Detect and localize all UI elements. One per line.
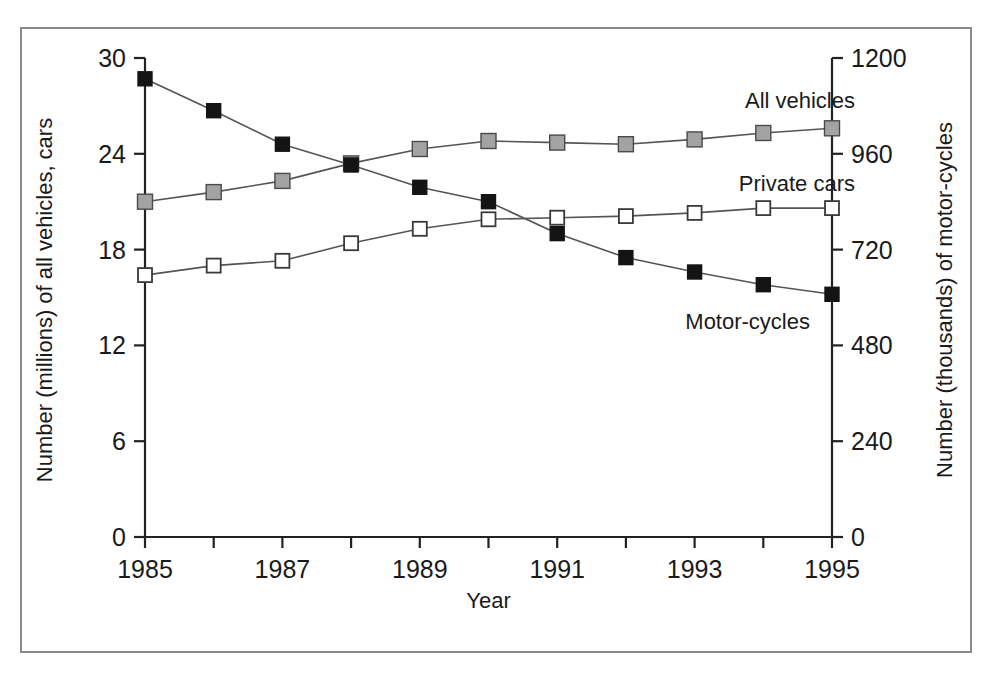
data-point-motor-cycles[interactable] — [482, 195, 496, 209]
clipped-caption-text — [22, 660, 662, 678]
data-point-private-cars[interactable] — [413, 222, 427, 236]
data-point-all-vehicles[interactable] — [138, 194, 153, 209]
data-point-all-vehicles[interactable] — [618, 137, 633, 152]
data-point-private-cars[interactable] — [550, 211, 564, 225]
data-point-motor-cycles[interactable] — [207, 104, 221, 118]
x-axis-title: Year — [466, 588, 510, 613]
right-axis-title: Number (thousands) of motor-cycles — [932, 122, 957, 478]
x-axis-tick-label: 1995 — [804, 555, 860, 583]
right-axis-tick-label: 0 — [851, 523, 865, 551]
right-axis-tick-label: 960 — [851, 140, 893, 168]
chart-canvas: 0612182430024048072096012001985198719891… — [0, 0, 994, 680]
left-axis-tick-label: 0 — [112, 523, 126, 551]
data-point-private-cars[interactable] — [275, 254, 289, 268]
left-axis-tick-label: 18 — [98, 236, 126, 264]
left-bottom-axis — [145, 58, 832, 537]
data-point-private-cars[interactable] — [688, 206, 702, 220]
right-axis-tick-label: 240 — [851, 427, 893, 455]
data-point-motor-cycles[interactable] — [413, 180, 427, 194]
right-axis-tick-label: 480 — [851, 331, 893, 359]
data-point-motor-cycles[interactable] — [619, 251, 633, 265]
series-label-all-vehicles: All vehicles — [745, 88, 855, 113]
data-point-motor-cycles[interactable] — [275, 137, 289, 151]
left-axis-tick-label: 6 — [112, 427, 126, 455]
data-point-motor-cycles[interactable] — [138, 72, 152, 86]
data-point-private-cars[interactable] — [825, 201, 839, 215]
data-point-all-vehicles[interactable] — [825, 121, 840, 136]
left-axis-tick-label: 24 — [98, 140, 126, 168]
data-point-motor-cycles[interactable] — [688, 265, 702, 279]
series-label-motor-cycles: Motor-cycles — [685, 309, 810, 334]
data-point-private-cars[interactable] — [138, 268, 152, 282]
data-point-all-vehicles[interactable] — [412, 142, 427, 157]
data-point-motor-cycles[interactable] — [756, 278, 770, 292]
data-point-all-vehicles[interactable] — [206, 185, 221, 200]
data-point-private-cars[interactable] — [344, 236, 358, 250]
x-axis-tick-label: 1991 — [529, 555, 585, 583]
data-point-all-vehicles[interactable] — [550, 135, 565, 150]
left-axis-title: Number (millions) of all vehicles, cars — [32, 118, 57, 482]
data-point-all-vehicles[interactable] — [481, 134, 496, 149]
data-point-private-cars[interactable] — [482, 212, 496, 226]
data-point-all-vehicles[interactable] — [756, 126, 771, 141]
x-axis-tick-label: 1993 — [667, 555, 723, 583]
data-point-motor-cycles[interactable] — [825, 287, 839, 301]
data-point-all-vehicles[interactable] — [275, 173, 290, 188]
x-axis-tick-label: 1985 — [117, 555, 173, 583]
right-axis-tick-label: 1200 — [851, 44, 907, 72]
data-point-private-cars[interactable] — [207, 259, 221, 273]
data-point-motor-cycles[interactable] — [344, 158, 358, 172]
data-point-all-vehicles[interactable] — [687, 132, 702, 147]
data-point-motor-cycles[interactable] — [550, 227, 564, 241]
data-point-private-cars[interactable] — [619, 209, 633, 223]
data-point-private-cars[interactable] — [756, 201, 770, 215]
series-label-private-cars: Private cars — [739, 171, 855, 196]
x-axis-tick-label: 1989 — [392, 555, 448, 583]
left-axis-tick-label: 12 — [98, 331, 126, 359]
figure-root: 0612182430024048072096012001985198719891… — [0, 0, 994, 680]
right-axis-tick-label: 720 — [851, 236, 893, 264]
left-axis-tick-label: 30 — [98, 44, 126, 72]
x-axis-tick-label: 1987 — [255, 555, 311, 583]
